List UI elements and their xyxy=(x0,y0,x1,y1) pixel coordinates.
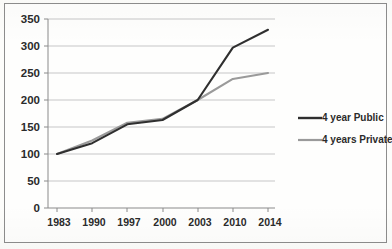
x-axis-labels: 1983 1990 1997 2000 2003 2010 2014 xyxy=(47,216,282,228)
x-tick-label-2014: 2014 xyxy=(258,216,282,228)
y-tick-label-100: 100 xyxy=(21,148,40,160)
y-tick-label-350: 350 xyxy=(21,13,40,25)
y-axis-ticks xyxy=(44,19,48,208)
y-tick-label-200: 200 xyxy=(21,94,40,106)
y-tick-label-250: 250 xyxy=(21,67,40,79)
x-tick-label-2003: 2003 xyxy=(188,216,212,228)
y-tick-label-0: 0 xyxy=(34,202,40,214)
y-axis-labels: 350 300 250 200 150 100 50 0 xyxy=(21,13,40,214)
x-tick-label-1983: 1983 xyxy=(47,216,71,228)
x-tick-label-2000: 2000 xyxy=(153,216,177,228)
legend-label-public: 4 year Public xyxy=(322,112,384,123)
legend-label-private: 4 years Private xyxy=(322,134,392,145)
x-tick-label-1990: 1990 xyxy=(82,216,106,228)
y-tick-label-50: 50 xyxy=(27,175,40,187)
x-axis-ticks xyxy=(57,208,268,212)
chart-screenshot: 350 300 250 200 150 100 50 0 xyxy=(0,0,392,249)
y-tick-label-300: 300 xyxy=(21,40,40,52)
x-tick-label-1997: 1997 xyxy=(117,216,141,228)
line-chart: 350 300 250 200 150 100 50 0 xyxy=(0,0,392,249)
series-line-4-years-private xyxy=(57,73,268,154)
y-tick-label-150: 150 xyxy=(21,121,40,133)
chart-legend: 4 year Public 4 years Private xyxy=(298,112,392,145)
series-line-4-year-public xyxy=(57,30,268,154)
x-tick-label-2010: 2010 xyxy=(223,216,247,228)
